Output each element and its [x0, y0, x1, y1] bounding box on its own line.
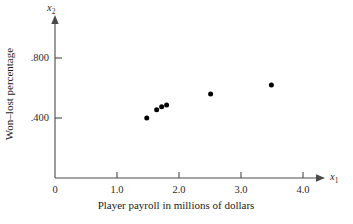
x-axis-arrow-icon — [316, 174, 325, 181]
data-point-marker — [208, 92, 213, 97]
x-tick-label: 1.0 — [110, 185, 123, 196]
x-tick-label: 4.0 — [296, 185, 309, 196]
x-tick-label: 0 — [52, 185, 57, 196]
scatter-plot-figure: 01.02.03.04.0.400.800 x2 x1 Player payro… — [0, 0, 353, 224]
x-tick-label: 3.0 — [234, 185, 247, 196]
data-point-marker — [269, 83, 274, 88]
data-point-marker — [154, 107, 159, 112]
data-point-marker — [164, 102, 169, 107]
x-axis-title: Player payroll in millions of dollars — [98, 199, 255, 211]
x-tick-label: 2.0 — [172, 185, 185, 196]
data-point-marker — [159, 104, 164, 109]
y-axis-variable-label: x2 — [47, 2, 55, 16]
y-axis-arrow-icon — [51, 15, 58, 24]
x-ticks-group — [117, 172, 303, 178]
y-ticks-group — [55, 58, 62, 118]
x-axis-variable-label: x1 — [330, 171, 338, 185]
axes-group — [51, 15, 325, 182]
data-points-group — [144, 83, 274, 121]
data-point-marker — [144, 116, 149, 121]
y-axis-title: Won–lost percentage — [3, 48, 15, 140]
